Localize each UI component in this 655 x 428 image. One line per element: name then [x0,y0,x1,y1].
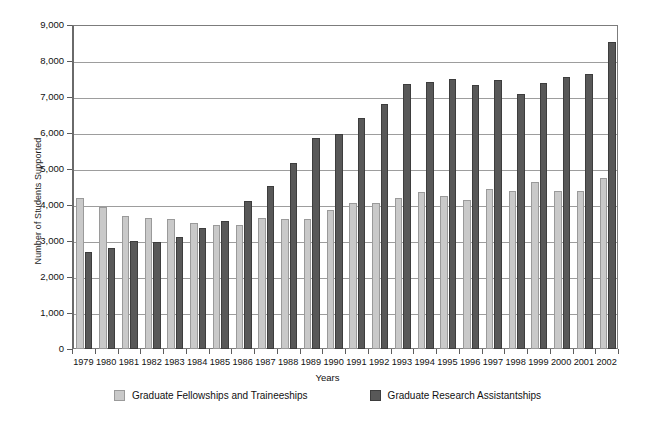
bar [176,237,184,349]
y-tick-label: 9,000 [4,19,64,30]
bar [167,219,175,349]
year-group [145,25,161,349]
bar [403,84,411,349]
bar [258,218,266,349]
bar [440,196,448,349]
year-group [327,25,343,349]
bar [130,241,138,349]
x-tick-mark [209,349,210,354]
bar [304,219,312,349]
year-group [440,25,456,349]
y-tick-mark [67,25,72,26]
y-tick-label: 0 [4,343,64,354]
bar [281,219,289,349]
bar [486,189,494,349]
year-group [531,25,547,349]
bar [290,163,298,349]
x-tick-mark [345,349,346,354]
bar [494,80,502,349]
x-axis-title: Years [0,372,655,383]
x-tick-mark [573,349,574,354]
year-group [167,25,183,349]
year-group [76,25,92,349]
y-tick-label: 4,000 [4,199,64,210]
year-group [554,25,570,349]
bar [221,221,229,349]
y-tick-mark [67,241,72,242]
year-group [281,25,297,349]
y-tick-label: 2,000 [4,271,64,282]
legend-label-assistantships: Graduate Research Assistantships [388,390,541,401]
x-tick-mark [527,349,528,354]
bar [327,210,335,349]
bar [517,94,525,349]
bar [381,104,389,349]
x-tick-mark [595,349,596,354]
bar [145,218,153,349]
y-tick-label: 3,000 [4,235,64,246]
year-group [190,25,206,349]
bar [236,225,244,349]
y-tick-mark [67,169,72,170]
year-group [258,25,274,349]
x-tick-mark [118,349,119,354]
x-tick-mark [413,349,414,354]
year-group [463,25,479,349]
year-group [372,25,388,349]
bar [99,207,107,349]
x-tick-label: 2002 [590,357,623,367]
year-group [99,25,115,349]
y-tick-mark [67,61,72,62]
x-tick-mark [459,349,460,354]
x-tick-mark [391,349,392,354]
y-tick-label: 7,000 [4,91,64,102]
bar [349,203,357,349]
dark-gray-swatch-icon [370,390,381,401]
x-tick-mark [72,349,73,354]
x-tick-mark [368,349,369,354]
bar [199,228,207,349]
year-group [236,25,252,349]
year-group [304,25,320,349]
bar [312,138,320,349]
x-tick-mark [95,349,96,354]
y-tick-mark [67,97,72,98]
year-group [395,25,411,349]
bar [509,191,517,349]
legend-item-fellowships: Graduate Fellowships and Traineeships [114,390,308,401]
year-group [600,25,616,349]
bar [85,252,93,349]
year-group [486,25,502,349]
y-tick-label: 1,000 [4,307,64,318]
x-tick-mark [322,349,323,354]
x-tick-mark [300,349,301,354]
bar [122,216,130,349]
year-group [122,25,138,349]
bar [418,192,426,349]
x-tick-mark [550,349,551,354]
bar [213,225,221,349]
bars-layer [73,25,618,349]
x-tick-mark [140,349,141,354]
y-tick-label: 5,000 [4,163,64,174]
grouped-bar-chart: Number of Students Supported 9,0008,0007… [0,0,655,428]
year-group [577,25,593,349]
light-gray-swatch-icon [114,390,125,401]
bar [335,134,343,349]
bar [531,182,539,349]
bar [585,74,593,349]
y-tick-label: 8,000 [4,55,64,66]
bar [395,198,403,349]
x-tick-mark [254,349,255,354]
bar [108,248,116,349]
bar [153,242,161,349]
x-tick-mark [436,349,437,354]
bar [449,79,457,349]
legend-item-assistantships: Graduate Research Assistantships [370,390,541,401]
bar [608,42,616,349]
bar [190,223,198,349]
y-tick-mark [67,277,72,278]
bar [358,118,366,349]
year-group [213,25,229,349]
bar [472,85,480,349]
